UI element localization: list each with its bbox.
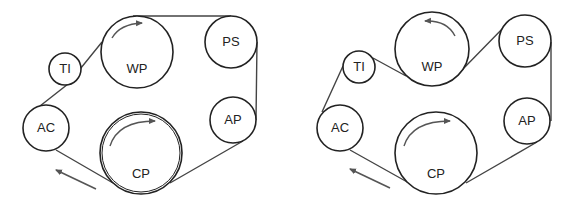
label-ac: AC <box>331 120 349 135</box>
label-ac: AC <box>37 120 55 135</box>
pulley-cp <box>395 112 477 194</box>
label-ps: PS <box>516 33 534 48</box>
label-ap: AP <box>518 113 535 128</box>
left-diagram: TI WP PS AC CP AP <box>23 16 257 194</box>
belt-diagrams: TI WP PS AC CP AP TI WP PS AC CP AP <box>0 0 571 208</box>
pulley-wp <box>395 12 469 86</box>
label-wp: WP <box>127 61 148 76</box>
label-ap: AP <box>224 112 241 127</box>
belt-direction-arrow-icon <box>56 170 96 189</box>
belt-direction-arrow-icon <box>350 169 390 188</box>
pulley-wp <box>101 16 173 88</box>
label-wp: WP <box>422 59 443 74</box>
label-ti: TI <box>353 59 365 74</box>
label-cp: CP <box>427 166 445 181</box>
label-ps: PS <box>222 34 240 49</box>
label-ti: TI <box>59 61 71 76</box>
right-diagram: TI WP PS AC CP AP <box>317 12 551 194</box>
label-cp: CP <box>132 166 150 181</box>
